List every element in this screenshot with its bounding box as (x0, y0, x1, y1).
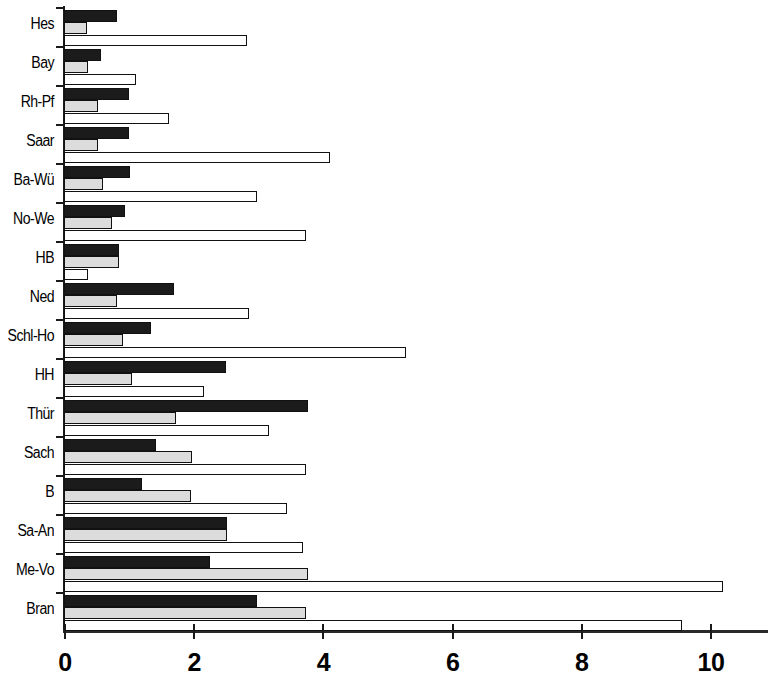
bar-chart: HesBayRh-PfSaarBa-WüNo-WeHBNedSchl-HoHHT… (0, 0, 768, 687)
category-label-hb: HB (6, 249, 54, 267)
category-label-sa-an: Sa-An (6, 522, 54, 540)
bar-group: Thür (0, 396, 704, 435)
bar-series-1-rh-pf (64, 88, 129, 100)
x-tick-label: 10 (691, 648, 731, 677)
category-tick (56, 7, 65, 9)
bar-group: HB (0, 240, 704, 279)
bar-series-1-no-we (64, 205, 125, 217)
bar-group: Schl-Ho (0, 318, 704, 357)
bar-series-3-bran (64, 620, 682, 632)
bar-group: Sach (0, 435, 704, 474)
x-tick-10 (710, 624, 712, 639)
bar-series-1-hh (64, 361, 226, 373)
bar-group: B (0, 474, 704, 513)
bar-group: No-We (0, 201, 704, 240)
bar-series-1-sach (64, 439, 156, 451)
category-label-me-vo: Me-Vo (6, 561, 54, 579)
bar-series-2-th-r (64, 412, 176, 424)
bar-series-1-ba-w- (64, 166, 130, 178)
category-tick (56, 514, 65, 516)
bar-series-2-hh (64, 373, 132, 385)
category-label-schl-ho: Schl-Ho (6, 327, 54, 345)
category-tick (56, 475, 65, 477)
bar-group: Me-Vo (0, 552, 704, 591)
bar-group: Hes (0, 6, 704, 45)
x-tick-2 (193, 624, 195, 639)
category-tick (56, 358, 65, 360)
category-label-bran: Bran (6, 600, 54, 618)
category-tick (56, 280, 65, 282)
category-label-saar: Saar (6, 132, 54, 150)
bar-series-1-schl-ho (64, 322, 151, 334)
bar-series-2-b (64, 490, 191, 502)
category-tick (56, 163, 65, 165)
x-tick-label: 2 (174, 648, 214, 677)
bar-group: Ba-Wü (0, 162, 704, 201)
bar-series-1-sa-an (64, 517, 227, 529)
bar-series-1-saar (64, 127, 129, 139)
bar-series-2-schl-ho (64, 334, 123, 346)
category-label-sach: Sach (6, 444, 54, 462)
bar-group: Ned (0, 279, 704, 318)
bar-group: Bay (0, 45, 704, 84)
x-tick-label: 4 (303, 648, 343, 677)
category-label-hh: HH (6, 366, 54, 384)
bar-series-2-saar (64, 139, 98, 151)
x-tick-4 (322, 624, 324, 639)
bar-series-1-bay (64, 49, 101, 61)
category-tick (56, 202, 65, 204)
bar-series-2-bay (64, 61, 88, 73)
category-label-ned: Ned (6, 288, 54, 306)
bar-series-2-bran (64, 607, 306, 619)
category-tick (56, 241, 65, 243)
category-label-b: B (6, 483, 54, 501)
bar-series-2-me-vo (64, 568, 308, 580)
category-tick (56, 46, 65, 48)
x-tick-0 (64, 624, 66, 639)
category-label-hes: Hes (6, 15, 54, 33)
bar-group: Rh-Pf (0, 84, 704, 123)
bar-group: Sa-An (0, 513, 704, 552)
x-tick-label: 0 (45, 648, 85, 677)
bar-series-2-no-we (64, 217, 112, 229)
bar-series-2-rh-pf (64, 100, 98, 112)
category-tick (56, 319, 65, 321)
category-tick (56, 436, 65, 438)
category-label-bay: Bay (6, 54, 54, 72)
x-tick-6 (452, 624, 454, 639)
bar-series-1-me-vo (64, 556, 210, 568)
bar-series-1-th-r (64, 400, 308, 412)
bar-series-1-hes (64, 10, 117, 22)
bar-series-1-ned (64, 283, 174, 295)
x-tick-label: 6 (433, 648, 473, 677)
category-tick (56, 124, 65, 126)
category-tick (56, 85, 65, 87)
bar-series-1-hb (64, 244, 119, 256)
bar-series-1-bran (64, 595, 257, 607)
x-tick-label: 8 (562, 648, 602, 677)
category-tick (56, 397, 65, 399)
bar-group: Bran (0, 591, 704, 630)
category-label-ba-w-: Ba-Wü (6, 171, 54, 189)
bar-group: HH (0, 357, 704, 396)
category-label-no-we: No-We (6, 210, 54, 228)
bar-series-2-ba-w- (64, 178, 103, 190)
bar-series-2-sa-an (64, 529, 227, 541)
category-label-rh-pf: Rh-Pf (6, 93, 54, 111)
bar-series-1-b (64, 478, 142, 490)
bar-group: Saar (0, 123, 704, 162)
bar-series-2-sach (64, 451, 192, 463)
bar-series-2-hes (64, 22, 87, 34)
category-tick (56, 553, 65, 555)
bar-series-2-ned (64, 295, 117, 307)
category-label-th-r: Thür (6, 405, 54, 423)
bar-series-2-hb (64, 256, 119, 268)
category-tick (56, 592, 65, 594)
x-tick-8 (581, 624, 583, 639)
